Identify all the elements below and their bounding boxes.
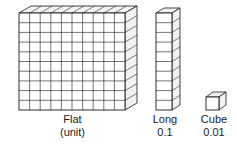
- cube-block: [206, 92, 226, 110]
- long-label-line1: Long: [153, 113, 177, 125]
- block-front-face: [206, 97, 219, 110]
- flat-label-line1: Flat: [63, 113, 81, 125]
- cube-label-line1: Cube: [201, 113, 227, 125]
- cube-label: Cube 0.01: [191, 113, 237, 139]
- cube-label-line2: 0.01: [191, 126, 237, 139]
- flat-label-line2: (unit): [19, 126, 126, 139]
- flat-block: [19, 6, 137, 110]
- flat-label: Flat (unit): [19, 113, 126, 139]
- long-label: Long 0.1: [143, 113, 187, 139]
- long-block: [156, 8, 180, 110]
- long-label-line2: 0.1: [143, 126, 187, 139]
- base-ten-blocks-figure: Flat (unit) Long 0.1 Cube 0.01: [0, 0, 237, 151]
